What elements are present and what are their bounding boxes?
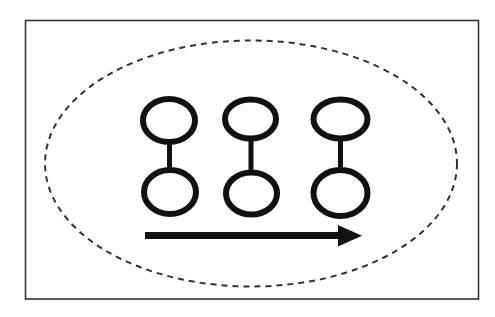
dumbbell-molecule bbox=[314, 100, 368, 217]
dumbbell-bottom-circle bbox=[226, 173, 277, 215]
dumbbell-top-circle bbox=[143, 99, 195, 142]
arrow-head bbox=[338, 225, 362, 247]
dumbbell-top-circle bbox=[225, 100, 276, 139]
diagram-canvas bbox=[0, 0, 495, 317]
dumbbell-molecule bbox=[143, 99, 196, 214]
dumbbell-top-circle bbox=[314, 100, 368, 139]
dumbbell-group bbox=[143, 99, 368, 216]
dumbbell-bottom-circle bbox=[314, 170, 368, 216]
arrow-shaft bbox=[145, 232, 340, 239]
dumbbell-bottom-circle bbox=[144, 170, 196, 214]
dumbbell-molecule bbox=[225, 100, 277, 215]
right-arrow-icon bbox=[145, 225, 362, 247]
